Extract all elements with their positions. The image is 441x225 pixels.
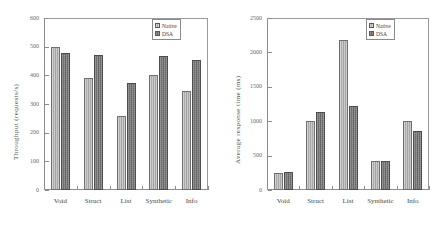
legend-throughput: Native DSA — [152, 19, 181, 40]
x-tick-mark — [77, 186, 78, 190]
bar-void-dsa — [284, 172, 293, 190]
y-tick-mark — [45, 104, 49, 105]
y-tick-label: 500 — [236, 152, 262, 158]
x-tick-mark — [299, 186, 300, 190]
y-tick-mark — [268, 52, 272, 53]
y-tick-label: 2500 — [236, 15, 262, 21]
legend-swatch-dsa-icon — [369, 31, 374, 36]
y-tick-mark — [45, 133, 49, 134]
legend-label-dsa: DSA — [162, 31, 173, 37]
x-axis-label-synthetic: Synthetic — [367, 197, 393, 205]
bar-struct-native — [306, 121, 315, 190]
y-tick-mark — [268, 18, 272, 19]
x-tick-mark — [429, 186, 430, 190]
bar-list-native — [339, 40, 348, 190]
legend-item-dsa: DSA — [369, 30, 391, 37]
x-tick-mark — [142, 186, 143, 190]
y-tick-mark — [268, 121, 272, 122]
y-tick-label: 2000 — [236, 49, 262, 55]
x-axis-label-void: Void — [277, 197, 290, 205]
y-tick-mark — [45, 161, 49, 162]
y-tick-label: 100 — [13, 158, 39, 164]
bar-synthetic-native — [371, 161, 380, 190]
bar-synthetic-native — [149, 75, 158, 190]
x-axis-label-void: Void — [54, 197, 67, 205]
y-tick-mark — [45, 190, 49, 191]
bar-info-native — [182, 91, 191, 190]
legend-item-native: Native — [369, 22, 391, 29]
y-tick-mark — [45, 18, 49, 19]
y-tick-label: 600 — [13, 15, 39, 21]
x-axis-label-list: List — [121, 197, 132, 205]
bar-void-native — [51, 47, 60, 190]
bar-list-dsa — [127, 83, 136, 190]
bar-synthetic-dsa — [159, 56, 168, 190]
legend-label-dsa: DSA — [376, 31, 387, 37]
legend-swatch-native-icon — [369, 23, 374, 28]
y-tick-label: 1000 — [236, 118, 262, 124]
bar-info-native — [403, 121, 412, 190]
y-tick-mark — [45, 47, 49, 48]
x-tick-mark — [397, 186, 398, 190]
legend-response-time: Native DSA — [366, 19, 395, 40]
x-tick-mark — [332, 186, 333, 190]
y-tick-label: 300 — [13, 101, 39, 107]
bar-void-dsa — [61, 53, 70, 190]
y-tick-label: 0 — [236, 187, 262, 193]
legend-item-native: Native — [155, 22, 177, 29]
bar-struct-native — [84, 78, 93, 190]
y-tick-label: 400 — [13, 72, 39, 78]
legend-item-dsa: DSA — [155, 30, 177, 37]
bar-struct-dsa — [94, 55, 103, 190]
x-tick-mark — [175, 186, 176, 190]
bar-info-dsa — [413, 131, 422, 190]
bar-list-native — [117, 116, 126, 190]
legend-label-native: Native — [162, 23, 177, 29]
x-axis-label-struct: Struct — [85, 197, 102, 205]
bar-void-native — [274, 173, 283, 190]
x-tick-mark — [208, 186, 209, 190]
y-tick-label: 1500 — [236, 83, 262, 89]
y-tick-label: 500 — [13, 43, 39, 49]
x-axis-label-list: List — [343, 197, 354, 205]
x-axis-label-info: Info — [186, 197, 198, 205]
x-tick-mark — [364, 186, 365, 190]
x-axis-label-struct: Struct — [307, 197, 324, 205]
y-tick-mark — [45, 75, 49, 76]
chart-throughput: Throughput (requests/s) 0100200300400500… — [0, 0, 220, 225]
legend-label-native: Native — [376, 23, 391, 29]
y-tick-mark — [268, 87, 272, 88]
figure-canvas: Throughput (requests/s) 0100200300400500… — [0, 0, 441, 225]
x-axis-label-info: Info — [407, 197, 419, 205]
legend-swatch-native-icon — [155, 23, 160, 28]
x-tick-mark — [110, 186, 111, 190]
y-tick-label: 0 — [13, 187, 39, 193]
x-axis-label-synthetic: Synthetic — [146, 197, 172, 205]
bar-synthetic-dsa — [381, 161, 390, 190]
y-tick-label: 200 — [13, 129, 39, 135]
bar-list-dsa — [349, 106, 358, 190]
y-tick-mark — [268, 190, 272, 191]
y-axis-label-throughput: Throughput (requests/s) — [12, 84, 20, 160]
legend-swatch-dsa-icon — [155, 31, 160, 36]
chart-response-time: Average response time (ms) 0500100015002… — [221, 0, 441, 225]
bar-struct-dsa — [316, 112, 325, 190]
bar-info-dsa — [192, 60, 201, 190]
y-tick-mark — [268, 156, 272, 157]
